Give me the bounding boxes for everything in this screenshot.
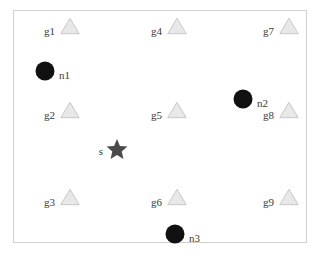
- marker-label-n1: n1: [59, 70, 70, 81]
- marker-label-g1: g1: [44, 26, 55, 37]
- triangle-marker-g7: [279, 18, 299, 35]
- marker-label-g8: g8: [263, 110, 274, 121]
- marker-label-g2: g2: [44, 110, 55, 121]
- marker-label-s: s: [99, 146, 103, 157]
- plot-frame: [13, 10, 307, 243]
- triangle-marker-g5: [167, 102, 187, 119]
- circle-marker-n3: [166, 225, 185, 244]
- triangle-marker-g1: [60, 18, 80, 35]
- triangle-marker-g9: [279, 189, 299, 206]
- marker-label-g4: g4: [151, 26, 162, 37]
- triangle-marker-g4: [167, 18, 187, 35]
- triangle-marker-g6: [167, 189, 187, 206]
- star-marker-s: [106, 139, 128, 161]
- circle-marker-n2: [234, 90, 253, 109]
- marker-label-g3: g3: [44, 197, 55, 208]
- marker-label-g5: g5: [151, 110, 162, 121]
- triangle-marker-g8: [279, 102, 299, 119]
- marker-label-g6: g6: [151, 197, 162, 208]
- triangle-marker-g3: [60, 189, 80, 206]
- circle-marker-n1: [36, 62, 55, 81]
- marker-label-n3: n3: [189, 233, 200, 244]
- figure-canvas: g1g2g3g4g5g6g7g8g9n1n2n3s: [0, 0, 320, 265]
- marker-label-g7: g7: [263, 26, 274, 37]
- marker-label-g9: g9: [263, 197, 274, 208]
- triangle-marker-g2: [60, 102, 80, 119]
- marker-label-n2: n2: [257, 98, 268, 109]
